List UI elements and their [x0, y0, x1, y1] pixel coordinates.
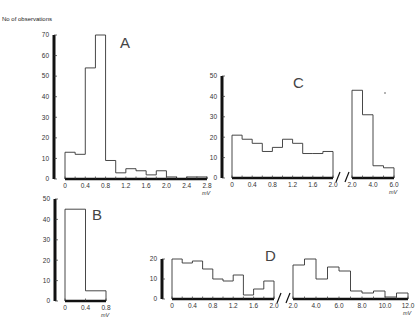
y-tick-label: 40 — [42, 93, 50, 100]
panel-letter: B — [92, 206, 102, 223]
y-tick-label: 50 — [210, 72, 218, 79]
y-tick-label: 20 — [42, 134, 50, 141]
x-tick-label: 2.4 — [182, 182, 191, 189]
y-tick-label: 0 — [213, 174, 217, 181]
x-tick-label: 0 — [230, 181, 234, 188]
x-tick-label: 0.8 — [101, 182, 110, 189]
y-tick-label: 60 — [42, 52, 50, 59]
panel-letter: D — [265, 247, 276, 264]
histogram-bars — [172, 259, 274, 299]
x-tick-label: 0.4 — [188, 302, 197, 309]
x-tick-label: 1.6 — [142, 182, 151, 189]
y-tick-label: 10 — [43, 277, 51, 284]
y-tick-label: 50 — [43, 195, 51, 202]
x-tick-label: 2.8 — [202, 182, 211, 189]
panel-a: 010203040506070A00.40.81.21.62.02.42.8mV — [42, 31, 212, 196]
x-tick-label: 6.0 — [389, 181, 398, 188]
x-tick-label: 0 — [63, 182, 67, 189]
x-tick-label: 0.8 — [268, 181, 277, 188]
y-axis-label: No of observations — [2, 16, 52, 22]
x-tick-label: 1.2 — [121, 182, 130, 189]
panel-letter: C — [293, 74, 304, 91]
x-tick-label: 10.0 — [379, 302, 392, 309]
x-tick-label: 2.0 — [162, 182, 171, 189]
y-tick-label: 10 — [42, 155, 50, 162]
x-tick-label: 0.4 — [81, 304, 90, 311]
histogram-bars — [65, 35, 207, 179]
panel-d: 01020D00.40.81.21.62.02.04.06.08.010.012… — [150, 247, 415, 316]
x-tick-label: 1.2 — [288, 181, 297, 188]
y-tick-label: 0 — [46, 297, 50, 304]
x-tick-label: 2.0 — [288, 302, 297, 309]
histogram-figure: No of observations 010203040506070A00.40… — [0, 0, 420, 335]
histogram-bars — [232, 135, 333, 178]
y-tick-label: 70 — [42, 31, 50, 38]
x-tick-label: 6.0 — [334, 302, 343, 309]
y-tick-label: 40 — [43, 216, 51, 223]
axis-break-mark — [336, 172, 340, 182]
y-tick-label: 10 — [150, 275, 158, 282]
y-tick-label: 30 — [43, 236, 51, 243]
panel-b: 01020304050B00.40.8mV — [43, 195, 111, 318]
y-tick-label: 20 — [210, 134, 218, 141]
x-tick-label: 0 — [170, 302, 174, 309]
y-tick-label: 0 — [153, 295, 157, 302]
x-tick-label: 0.4 — [248, 181, 257, 188]
x-unit-label: mV — [389, 189, 399, 195]
scan-artifact-dot — [384, 92, 386, 94]
x-tick-label: 8.0 — [357, 302, 366, 309]
x-unit-label: mV — [403, 310, 413, 316]
x-tick-label: 0.4 — [81, 182, 90, 189]
x-tick-label: 2.0 — [347, 181, 356, 188]
y-tick-label: 20 — [43, 257, 51, 264]
x-tick-label: 0 — [63, 304, 67, 311]
x-tick-label: 1.6 — [249, 302, 258, 309]
y-tick-label: 10 — [210, 154, 218, 161]
panel-c: 01020304050C00.40.81.21.62.02.04.06.0mV — [210, 72, 399, 195]
y-tick-label: 0 — [45, 175, 49, 182]
axis-break-mark — [277, 293, 281, 303]
y-tick-label: 30 — [210, 113, 218, 120]
x-tick-label: 4.0 — [311, 302, 320, 309]
histogram-bars — [293, 259, 408, 299]
x-tick-label: 0.8 — [101, 304, 110, 311]
x-tick-label: 1.6 — [308, 181, 317, 188]
x-tick-label: 12.0 — [402, 302, 415, 309]
y-tick-label: 50 — [42, 72, 50, 79]
x-tick-label: 4.0 — [368, 181, 377, 188]
x-tick-label: 0.8 — [208, 302, 217, 309]
y-tick-label: 40 — [210, 93, 218, 100]
y-tick-label: 20 — [150, 255, 158, 262]
x-unit-label: mV — [101, 312, 111, 318]
y-tick-label: 30 — [42, 114, 50, 121]
x-tick-label: 1.2 — [229, 302, 238, 309]
histogram-bars — [352, 90, 394, 178]
x-unit-label: mV — [202, 190, 212, 196]
panel-letter: A — [120, 34, 130, 51]
